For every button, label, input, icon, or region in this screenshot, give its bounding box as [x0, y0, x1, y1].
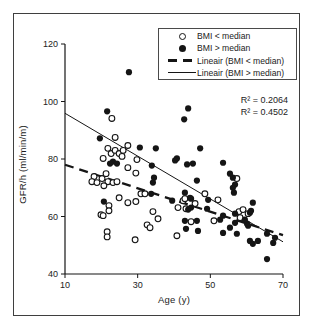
data-point	[109, 116, 115, 122]
data-point	[133, 170, 139, 176]
data-point	[148, 191, 154, 197]
legend-label: BMI > median	[197, 43, 250, 53]
x-axis-title: Age (y)	[65, 294, 283, 305]
x-tick-label: 10	[60, 280, 70, 290]
data-point	[94, 180, 100, 186]
data-point	[202, 191, 208, 197]
data-point	[231, 190, 237, 196]
data-point	[185, 105, 191, 111]
data-point	[101, 198, 107, 204]
data-point	[100, 156, 106, 162]
x-tick-label: 70	[278, 280, 288, 290]
data-point	[97, 135, 103, 141]
legend-row: BMI > median	[167, 42, 296, 54]
x-tick-label: 50	[205, 280, 215, 290]
data-point	[175, 205, 181, 211]
series-bmi-below-median	[89, 116, 251, 243]
data-point	[149, 163, 155, 169]
data-point	[215, 197, 221, 203]
data-point	[133, 199, 139, 205]
data-point	[103, 171, 109, 177]
data-point	[107, 161, 113, 167]
data-point	[125, 143, 131, 149]
y-tick-label: 40	[48, 269, 58, 279]
data-point	[106, 208, 112, 214]
data-point	[272, 235, 278, 241]
data-point	[194, 177, 200, 183]
data-point	[153, 145, 159, 151]
data-point	[217, 217, 223, 223]
data-point	[104, 234, 110, 240]
r-squared-annotations: R² = 0.2064 R² = 0.4502	[200, 94, 288, 118]
data-point	[188, 219, 194, 225]
data-point	[182, 196, 188, 202]
data-point	[172, 157, 178, 163]
data-point	[183, 226, 189, 232]
data-point	[147, 225, 153, 231]
data-point	[182, 218, 188, 224]
data-point	[234, 231, 240, 237]
data-point	[142, 191, 148, 197]
data-point	[245, 223, 251, 229]
data-point	[132, 237, 138, 243]
data-point	[248, 208, 254, 214]
y-axis-title: GFR/h (ml/min/m)	[17, 95, 28, 235]
data-point	[112, 135, 118, 141]
data-point	[134, 157, 140, 163]
data-point	[194, 218, 200, 224]
data-point	[250, 200, 256, 206]
filled-circle-icon	[179, 45, 186, 52]
data-point	[204, 206, 210, 212]
legend-label: Lineair (BMI < median)	[197, 56, 284, 66]
data-point	[150, 209, 156, 215]
r-squared-value: R² = 0.2064	[200, 94, 288, 106]
data-point	[126, 69, 132, 75]
x-tick-label: 30	[133, 280, 143, 290]
dashed-line-icon	[168, 59, 196, 61]
data-point	[125, 200, 131, 206]
data-point	[114, 179, 120, 185]
data-point	[116, 195, 122, 201]
data-point	[220, 230, 226, 236]
legend-marker-box	[167, 72, 197, 73]
data-point	[264, 256, 270, 262]
figure-panel: 10305070406080100120 GFR/h (ml/min/m) Ag…	[0, 0, 312, 330]
data-point	[150, 179, 156, 185]
open-circle-icon	[179, 33, 186, 40]
data-point	[195, 228, 201, 234]
legend-label: BMI < median	[197, 31, 250, 41]
data-point	[220, 160, 226, 166]
data-point	[182, 190, 188, 196]
data-point	[240, 207, 246, 213]
y-tick-label: 80	[48, 154, 58, 164]
r-squared-value: R² = 0.4502	[200, 106, 288, 118]
data-point	[190, 161, 196, 167]
y-tick-label: 60	[48, 212, 58, 222]
data-point	[119, 154, 125, 160]
solid-line-icon	[168, 72, 196, 73]
data-point	[105, 145, 111, 151]
data-point	[104, 108, 110, 114]
data-point	[205, 197, 211, 203]
data-point	[232, 220, 238, 226]
data-point	[188, 204, 194, 210]
data-point	[101, 183, 107, 189]
legend-marker-box	[167, 59, 197, 61]
data-point	[227, 171, 233, 177]
data-point	[211, 218, 217, 224]
y-tick-label: 100	[43, 97, 58, 107]
legend: BMI < median BMI > median Lineair (BMI <…	[158, 28, 297, 80]
data-point	[120, 147, 126, 153]
data-point	[232, 211, 238, 217]
data-point	[197, 145, 203, 151]
data-point	[188, 196, 194, 202]
data-point	[174, 233, 180, 239]
data-point	[184, 161, 190, 167]
data-point	[125, 165, 131, 171]
legend-marker-box	[167, 45, 197, 52]
trendline-bmi-above-median	[65, 113, 283, 242]
legend-marker-box	[167, 33, 197, 40]
legend-row: Lineair (BMI < median)	[167, 55, 296, 67]
data-point	[227, 225, 233, 231]
data-point	[99, 176, 105, 182]
